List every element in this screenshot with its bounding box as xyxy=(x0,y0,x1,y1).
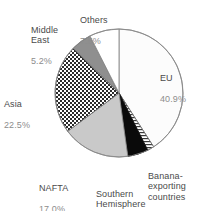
slice-label-middle-east: Middle East 5.2% xyxy=(31,14,58,77)
slice-label-southern-hemisphere: Southern Hemisphere 5.2% xyxy=(96,178,146,211)
slice-label-southern-name: Southern Hemisphere xyxy=(96,189,146,210)
pie-chart: EU 40.9% Banana- exporting countries 1.7… xyxy=(0,0,216,211)
slice-label-eu-name: EU xyxy=(160,73,186,84)
slice-label-nafta-name: NAFTA xyxy=(39,183,68,194)
slice-label-asia-name: Asia xyxy=(4,99,30,110)
slice-label-others-percent: 7.5% xyxy=(80,36,108,47)
slice-label-others-name: Others xyxy=(80,15,108,26)
slice-label-others: Others 7.5% xyxy=(80,4,108,57)
slice-label-nafta-percent: 17.0% xyxy=(39,204,68,212)
slice-label-middle-east-name: Middle East xyxy=(31,25,58,46)
slice-label-asia-percent: 22.5% xyxy=(4,120,30,131)
slice-label-banana-exporting-countries: Banana- exporting countries 1.7% xyxy=(148,160,186,211)
slice-label-middle-east-percent: 5.2% xyxy=(31,56,58,67)
slice-label-asia: Asia 22.5% xyxy=(4,88,30,141)
slice-label-eu-percent: 40.9% xyxy=(160,94,186,105)
slice-label-banana-name: Banana- exporting countries xyxy=(148,171,186,203)
slice-label-nafta: NAFTA 17.0% xyxy=(39,172,68,211)
slice-label-eu: EU 40.9% xyxy=(160,62,186,115)
